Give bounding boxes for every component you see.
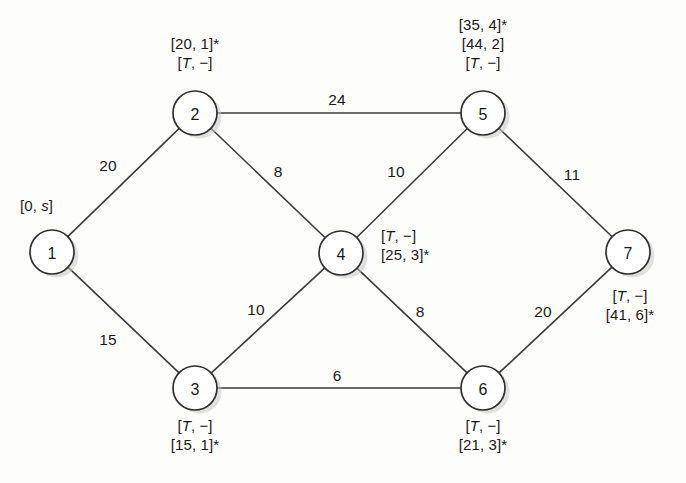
edge-weight-4-6: 8 <box>416 303 425 321</box>
node-number-5: 5 <box>479 106 488 123</box>
node-number-6: 6 <box>479 381 488 398</box>
node-label-line: [T, −] <box>459 416 507 435</box>
edge-weight-6-7: 20 <box>534 303 551 321</box>
graph-edge-2-4 <box>211 128 325 238</box>
node-label-4: [T, −][25, 3]* <box>381 226 429 264</box>
node-layer: 1234567 <box>30 91 655 414</box>
node-number-2: 2 <box>191 106 200 123</box>
node-number-3: 3 <box>191 381 200 398</box>
graph-edge-6-7 <box>499 267 612 373</box>
node-number-1: 1 <box>48 245 57 262</box>
edge-weight-1-2: 20 <box>99 157 116 175</box>
graph-edge-1-3 <box>68 267 179 373</box>
graph-canvas: 1234567 <box>0 0 686 483</box>
node-label-line: [15, 1]* <box>171 435 219 454</box>
node-label-line: [T, −] <box>171 416 219 435</box>
graph-node-2[interactable]: 2 <box>173 91 217 135</box>
node-label-line: [35, 4]* <box>459 15 507 34</box>
node-label-6: [T, −][21, 3]* <box>459 416 507 454</box>
node-label-2: [20, 1]*[T, −] <box>171 34 219 72</box>
node-label-line: [T, −] <box>381 226 429 245</box>
graph-edge-5-7 <box>499 128 612 237</box>
node-label-line: [0, s] <box>20 196 53 215</box>
graph-node-4[interactable]: 4 <box>319 231 363 275</box>
graph-node-6[interactable]: 6 <box>461 366 505 410</box>
node-label-line: [25, 3]* <box>381 245 429 264</box>
node-number-7: 7 <box>624 245 633 262</box>
node-label-line: [T, −] <box>459 53 507 72</box>
node-label-line: [20, 1]* <box>171 34 219 53</box>
node-label-5: [35, 4]*[44, 2][T, −] <box>459 15 507 72</box>
edge-weight-1-3: 15 <box>99 331 116 349</box>
node-label-line: [44, 2] <box>459 34 507 53</box>
edge-weight-4-5: 10 <box>387 163 404 181</box>
graph-node-5[interactable]: 5 <box>461 91 505 135</box>
graph-node-7[interactable]: 7 <box>606 230 650 274</box>
node-number-4: 4 <box>337 246 346 263</box>
graph-node-3[interactable]: 3 <box>173 366 217 410</box>
node-label-1: [0, s] <box>20 196 53 215</box>
edge-weight-3-4: 10 <box>247 301 264 319</box>
node-label-7: [T, −][41, 6]* <box>606 286 654 324</box>
node-label-line: [T, −] <box>606 286 654 305</box>
edge-weight-2-4: 8 <box>274 163 283 181</box>
graph-node-1[interactable]: 1 <box>30 230 74 274</box>
edge-weight-2-5: 24 <box>328 91 345 109</box>
graph-edge-4-5 <box>357 128 468 237</box>
node-label-3: [T, −][15, 1]* <box>171 416 219 454</box>
node-label-line: [21, 3]* <box>459 435 507 454</box>
edge-weight-3-6: 6 <box>333 367 342 385</box>
edge-weight-5-7: 11 <box>564 166 580 184</box>
graph-figure: 1234567 20152481010861120 [0, s][20, 1]*… <box>0 0 686 483</box>
node-label-line: [41, 6]* <box>606 305 654 324</box>
node-label-line: [T, −] <box>171 53 219 72</box>
graph-edge-3-4 <box>211 268 325 373</box>
graph-edge-1-2 <box>68 128 179 236</box>
graph-edge-4-6 <box>357 268 467 373</box>
